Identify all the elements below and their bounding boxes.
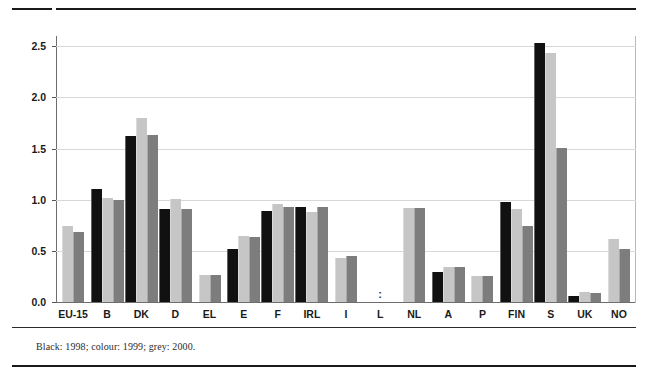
bar-group: [431, 36, 465, 302]
bar-group: [124, 36, 158, 302]
bar-E-1999: [238, 236, 249, 303]
bar-highlight-edge: [346, 256, 347, 302]
bar-S-2000: [556, 148, 567, 302]
bar-FIN-1998: [500, 202, 511, 302]
bar-highlight-edge: [227, 249, 228, 302]
y-tick-mark: [52, 302, 56, 303]
bar-highlight-edge: [556, 148, 557, 302]
chart-page: : 0.00.51.01.52.02.5 EU-15BDKDELEFIRLILN…: [0, 0, 648, 373]
bar-group: [329, 36, 363, 302]
bottom-rule: [12, 365, 636, 367]
bar-highlight-edge: [199, 275, 200, 302]
bar-NL-1999: [403, 208, 414, 302]
bar-highlight-edge: [619, 249, 620, 302]
bar-UK-1999: [579, 292, 590, 302]
bar-highlight-edge: [482, 276, 483, 302]
y-tick-label: 1.5: [12, 144, 46, 155]
bar-NL-2000: [414, 208, 425, 302]
bar-highlight-edge: [295, 207, 296, 302]
x-tick-label-FIN: FIN: [500, 309, 534, 320]
bar-B-1998: [91, 189, 102, 302]
y-tick-label: 1.0: [12, 195, 46, 206]
bar-highlight-edge: [590, 293, 591, 302]
bar-highlight-edge: [261, 211, 262, 302]
bar-B-1999: [102, 198, 113, 302]
y-tick-mark: [52, 200, 56, 201]
bar-highlight-edge: [608, 239, 609, 302]
x-tick-label-S: S: [534, 309, 568, 320]
bar-I-2000: [346, 256, 357, 302]
bar-group: [90, 36, 124, 302]
bar-group: [397, 36, 431, 302]
bar-highlight-edge: [283, 207, 284, 302]
bar-highlight-edge: [454, 267, 455, 302]
bar-E-2000: [249, 237, 260, 302]
bar-D-1999: [170, 199, 181, 302]
bar-group: [602, 36, 636, 302]
divider-rule: [12, 327, 636, 328]
x-tick-label-F: F: [261, 309, 295, 320]
bar-group: [295, 36, 329, 302]
bar-DK-1999: [136, 118, 147, 302]
bar-P-1999: [471, 276, 482, 302]
bar-highlight-edge: [335, 258, 336, 302]
bar-group: [158, 36, 192, 302]
top-rule-left: [12, 8, 52, 10]
x-tick-label-UK: UK: [568, 309, 602, 320]
x-tick-label-NO: NO: [602, 309, 636, 320]
bar-highlight-edge: [272, 204, 273, 302]
bar-NO-2000: [619, 249, 630, 302]
chart-footnote: Black: 1998; colour: 1999; grey: 2000.: [36, 341, 195, 352]
bar-highlight-edge: [125, 136, 126, 302]
bar-highlight-edge: [91, 189, 92, 302]
x-axis-line: [56, 302, 636, 303]
bar-D-2000: [181, 209, 192, 302]
bar-highlight-edge: [579, 292, 580, 302]
x-tick-label-L: L: [363, 309, 397, 320]
bar-highlight-edge: [113, 200, 114, 302]
x-tick-label-B: B: [90, 309, 124, 320]
bar-EL-2000: [210, 275, 221, 302]
bar-highlight-edge: [62, 226, 63, 302]
bar-highlight-edge: [170, 199, 171, 302]
bar-IRL-1998: [295, 207, 306, 302]
bar-group: [500, 36, 534, 302]
bar-highlight-edge: [147, 135, 148, 302]
y-tick-mark: [52, 251, 56, 252]
bar-highlight-edge: [500, 202, 501, 302]
bar-B-2000: [113, 200, 124, 302]
bar-FIN-1999: [511, 209, 522, 302]
bar-group: [534, 36, 568, 302]
bar-group: [192, 36, 226, 302]
bar-F-1998: [261, 211, 272, 302]
bar-F-2000: [283, 207, 294, 302]
x-tick-label-NL: NL: [397, 309, 431, 320]
bar-D-1998: [159, 209, 170, 302]
bar-IRL-2000: [317, 207, 328, 302]
y-tick-mark: [52, 149, 56, 150]
y-tick-mark: [52, 97, 56, 98]
bar-highlight-edge: [249, 237, 250, 302]
bar-highlight-edge: [159, 209, 160, 302]
y-tick-label: 0.0: [12, 297, 46, 308]
bar-highlight-edge: [511, 209, 512, 302]
bar-group: [261, 36, 295, 302]
y-tick-label: 0.5: [12, 246, 46, 257]
bar-highlight-edge: [102, 198, 103, 302]
x-tick-label-E: E: [227, 309, 261, 320]
bar-group: [465, 36, 499, 302]
y-tick-label: 2.5: [12, 41, 46, 52]
bar-highlight-edge: [306, 212, 307, 302]
bar-highlight-edge: [545, 53, 546, 302]
bar-EU-15-2000: [73, 232, 84, 302]
bar-highlight-edge: [238, 236, 239, 303]
x-tick-label-EU-15: EU-15: [56, 309, 90, 320]
bar-highlight-edge: [534, 43, 535, 302]
plot-area: :: [56, 36, 636, 302]
bar-E-1998: [227, 249, 238, 302]
bar-highlight-edge: [181, 209, 182, 302]
bar-group: [568, 36, 602, 302]
bar-highlight-edge: [317, 207, 318, 302]
y-tick-label: 2.0: [12, 92, 46, 103]
bar-EU-15-1999: [62, 226, 73, 302]
